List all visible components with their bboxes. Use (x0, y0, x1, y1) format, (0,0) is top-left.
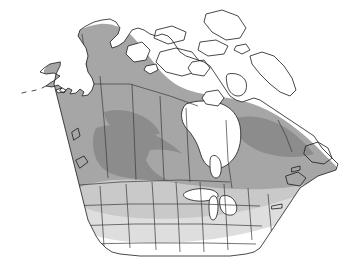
baffin-island (250, 52, 296, 96)
north-america-map-svg (0, 0, 349, 270)
james-bay (210, 155, 221, 178)
foxe-basin (226, 73, 246, 96)
devon-island (198, 40, 228, 56)
aleutian-islands (22, 86, 46, 93)
distribution-map-figure (0, 0, 349, 270)
ellesmere-island (204, 10, 246, 40)
border-us-west-vertical-1 (76, 186, 80, 242)
lake-michigan (209, 196, 218, 220)
small-arctic-island-b (234, 44, 250, 54)
